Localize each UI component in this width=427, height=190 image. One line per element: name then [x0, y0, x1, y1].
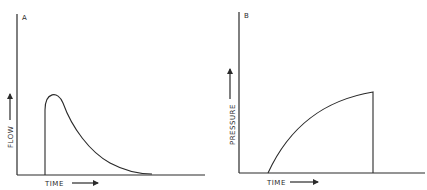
- panel-a: A TIME FLOW: [7, 14, 205, 188]
- panel-a-label: A: [22, 14, 27, 22]
- panel-b-label: B: [244, 12, 249, 20]
- panel-b: B TIME PRESSURE: [229, 12, 425, 187]
- panel-a-y-label: FLOW: [7, 126, 15, 148]
- panel-b-pressure-curve: [268, 92, 373, 173]
- panel-a-flow-curve: [45, 95, 152, 175]
- panel-b-x-label: TIME: [266, 179, 286, 187]
- figure: A TIME FLOW B TIME PRESSURE: [0, 0, 427, 190]
- panel-a-x-label: TIME: [44, 180, 64, 188]
- panel-b-y-label: PRESSURE: [229, 104, 237, 145]
